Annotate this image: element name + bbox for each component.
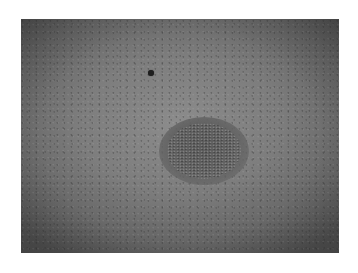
skin-photo bbox=[21, 19, 339, 253]
dark-spot bbox=[148, 70, 154, 76]
lesion-speckle bbox=[167, 123, 241, 179]
